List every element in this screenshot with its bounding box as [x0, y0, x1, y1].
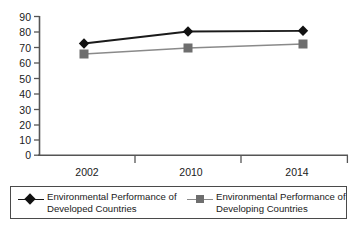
- y-tick-label-90: 90: [19, 11, 31, 23]
- y-tick-label-70: 70: [19, 42, 31, 54]
- legend-label-developed-line2: Developed Countries: [47, 203, 137, 214]
- series-line-developing: [84, 44, 303, 54]
- y-tick-label-40: 40: [19, 88, 31, 100]
- legend-label-developing-line1: Environmental Performance of: [216, 191, 346, 202]
- series-line-developed: [84, 31, 303, 44]
- y-tick-label-80: 80: [19, 26, 31, 38]
- series-markers-developing: [80, 40, 308, 59]
- plot-area: 90 80 70 60 50 40 30 20 10 0 2002 2010 2…: [0, 0, 361, 186]
- y-axis-ticks: [34, 17, 40, 156]
- square-marker-icon: [187, 193, 213, 205]
- legend-label-developed: Environmental Performance of Developed C…: [44, 191, 177, 214]
- legend-label-developing: Environmental Performance of Developing …: [213, 191, 346, 214]
- legend-label-developing-line2: Developing Countries: [216, 203, 308, 214]
- y-tick-label-10: 10: [19, 134, 31, 146]
- y-tick-label-30: 30: [19, 104, 31, 116]
- legend-entry-developing: Environmental Performance of Developing …: [187, 191, 346, 214]
- line-chart: 90 80 70 60 50 40 30 20 10 0 2002 2010 2…: [0, 0, 361, 225]
- diamond-marker-icon: [18, 193, 44, 205]
- chart-legend: Environmental Performance of Developed C…: [10, 186, 347, 219]
- y-tick-label-60: 60: [19, 57, 31, 69]
- legend-label-developed-line1: Environmental Performance of: [47, 191, 177, 202]
- legend-entry-developed: Environmental Performance of Developed C…: [18, 191, 177, 214]
- x-axis-ticks: [135, 155, 347, 163]
- y-tick-label-0: 0: [25, 149, 31, 161]
- x-tick-label-2014: 2014: [285, 166, 309, 178]
- x-tick-label-2002: 2002: [75, 166, 99, 178]
- x-tick-label-2010: 2010: [179, 166, 203, 178]
- y-tick-label-50: 50: [19, 73, 31, 85]
- y-tick-label-20: 20: [19, 119, 31, 131]
